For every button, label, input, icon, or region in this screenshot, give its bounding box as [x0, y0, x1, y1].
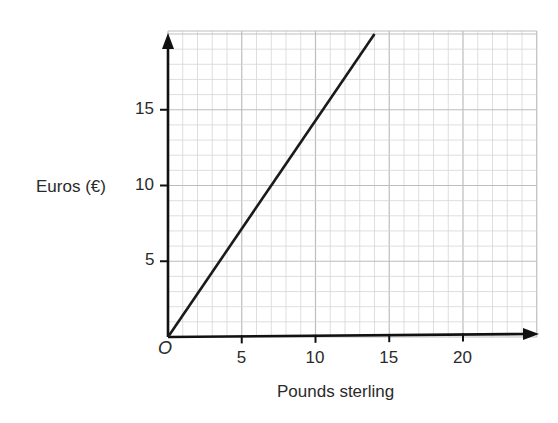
x-tick-label: 15 [379, 348, 398, 368]
y-tick-label: 10 [135, 175, 154, 195]
x-tick-label: 5 [237, 348, 246, 368]
y-axis-arrow-icon [162, 33, 174, 49]
grid [168, 31, 537, 337]
y-tick-label: 5 [145, 250, 154, 270]
y-tick-label: 15 [135, 99, 154, 119]
origin-label: O [158, 338, 172, 359]
x-tick-label: 10 [306, 348, 325, 368]
x-tick-label: 20 [453, 348, 472, 368]
y-axis-label: Euros (€) [36, 177, 106, 197]
conversion-graph [0, 0, 558, 423]
x-axis-label: Pounds sterling [277, 382, 394, 402]
